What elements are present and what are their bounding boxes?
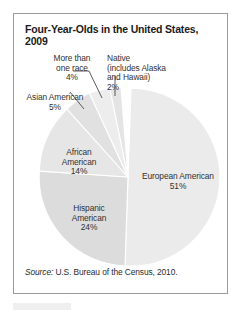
page-edge-artifact [13,303,71,310]
pie-label-native: Native (includes Alaska and Hawaii) 2% [107,54,173,92]
figure-card: Four-Year-Olds in the United States, 200… [13,13,228,294]
pie-label-more-than-one-race: More than one race 4% [42,54,102,83]
source-note: Source: U.S. Bureau of the Census, 2010. [25,267,219,277]
source-text: U.S. Bureau of the Census, 2010. [53,267,177,277]
pie-label-european-american: European American 51% [130,172,226,191]
pie-label-hispanic-american: Hispanic American 24% [58,204,120,233]
pie-chart: European American 51% Hispanic American … [14,14,227,293]
source-keyword: Source: [25,267,53,277]
pie-label-asian-american: Asian American 5% [16,93,94,112]
pie-label-african-american: African American 14% [48,148,110,177]
